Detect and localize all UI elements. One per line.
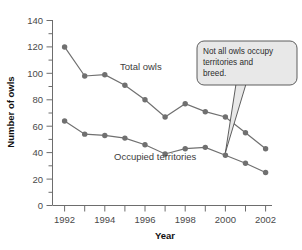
data-point — [203, 145, 208, 150]
data-point — [243, 161, 248, 166]
y-axis-minor-ticks — [49, 34, 53, 193]
chart-canvas: 140 120 100 80 60 40 20 0 1992 1994 1996… — [0, 0, 302, 250]
y-tick-label-120: 120 — [27, 41, 43, 52]
data-point — [82, 73, 87, 78]
callout-line-1: Not all owls occupy — [203, 47, 274, 56]
data-point — [183, 101, 188, 106]
y-axis-title: Number of owls — [5, 76, 16, 147]
y-tick-label-140: 140 — [27, 15, 43, 26]
data-point — [122, 83, 127, 88]
data-point — [203, 109, 208, 114]
data-point — [223, 114, 228, 119]
y-tick-label-0: 0 — [38, 200, 43, 211]
data-point — [102, 72, 107, 77]
y-tick-label-100: 100 — [27, 68, 43, 79]
x-tick-label-1992: 1992 — [54, 214, 75, 225]
y-tick-label-80: 80 — [32, 94, 43, 105]
data-point — [142, 97, 147, 102]
series-label-occupied-territories: Occupied territories — [114, 151, 197, 162]
y-tick-label-60: 60 — [32, 121, 43, 132]
data-point — [102, 133, 107, 138]
x-axis-ticks — [65, 206, 266, 212]
data-point — [142, 142, 147, 147]
callout-line-2: territories and — [203, 58, 254, 67]
series-label-total-owls: Total owls — [120, 61, 162, 72]
data-point — [263, 146, 268, 151]
callout-line-3: breed. — [203, 69, 226, 78]
x-tick-label-1998: 1998 — [175, 214, 196, 225]
owl-population-chart: 140 120 100 80 60 40 20 0 1992 1994 1996… — [0, 0, 302, 250]
x-tick-label-2000: 2000 — [215, 214, 236, 225]
x-tick-label-1996: 1996 — [134, 214, 155, 225]
y-tick-label-20: 20 — [32, 174, 43, 185]
data-point — [162, 114, 167, 119]
data-point — [62, 118, 67, 123]
x-axis-title: Year — [155, 230, 175, 241]
callout-tail — [225, 84, 246, 153]
data-point — [82, 131, 87, 136]
data-point — [223, 153, 228, 158]
data-point — [263, 170, 268, 175]
data-point — [243, 130, 248, 135]
y-tick-label-40: 40 — [32, 147, 43, 158]
x-tick-label-1994: 1994 — [94, 214, 115, 225]
data-point — [62, 44, 67, 49]
data-point — [122, 135, 127, 140]
series-line — [65, 121, 266, 173]
x-tick-label-2002: 2002 — [255, 214, 276, 225]
